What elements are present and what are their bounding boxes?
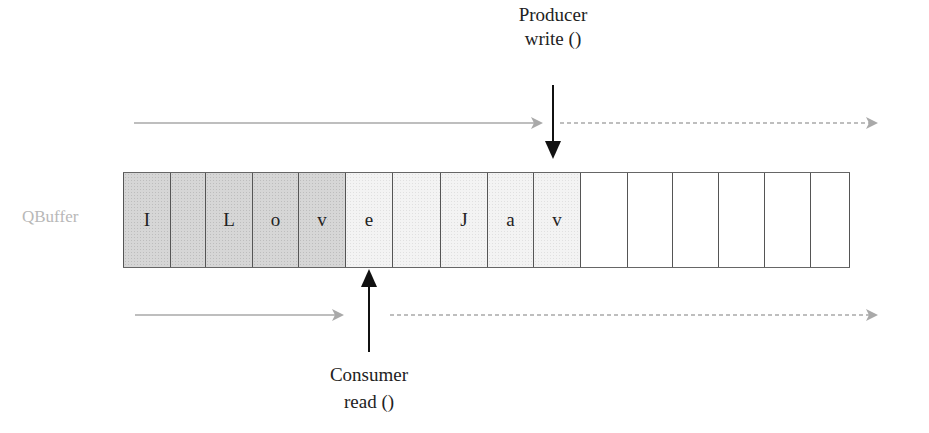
arrows-layer (0, 0, 929, 433)
producer-pointer-arrow (545, 85, 561, 159)
consumer-method: read () (303, 388, 435, 415)
consumer-pointer-arrow (361, 269, 377, 352)
consumer-title: Consumer (303, 361, 435, 388)
consumer-label: Consumer read () (303, 361, 435, 415)
